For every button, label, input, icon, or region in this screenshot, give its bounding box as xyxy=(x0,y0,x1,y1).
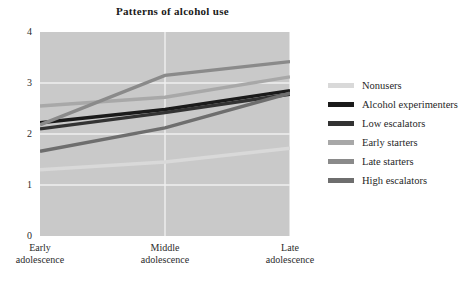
x-tick-line1: Middle xyxy=(151,242,180,253)
legend-swatch-high-escalators xyxy=(328,178,354,183)
x-tick-line2: adolescence xyxy=(123,254,207,266)
legend-item-early-starters[interactable]: Early starters xyxy=(328,133,471,152)
legend-label-high-escalators: High escalators xyxy=(362,175,427,186)
x-tick-line2: adolescence xyxy=(248,254,332,266)
legend-item-high-escalators[interactable]: High escalators xyxy=(328,171,471,190)
y-tick-4: 4 xyxy=(0,27,32,37)
plot-area xyxy=(40,32,290,236)
legend-label-low-escalators: Low escalators xyxy=(362,118,425,129)
legend-swatch-low-escalators xyxy=(328,121,354,126)
chart-legend: NonusersAlcohol experimentersLow escalat… xyxy=(328,76,471,190)
legend-label-alcohol-experimenters: Alcohol experimenters xyxy=(362,99,458,110)
x-tick-middle: Middleadolescence xyxy=(123,242,207,266)
legend-item-late-starters[interactable]: Late starters xyxy=(328,152,471,171)
x-tick-line1: Early xyxy=(29,242,51,253)
y-tick-1: 1 xyxy=(0,180,32,190)
legend-swatch-late-starters xyxy=(328,159,354,164)
legend-item-nonusers[interactable]: Nonusers xyxy=(328,76,471,95)
legend-label-nonusers: Nonusers xyxy=(362,80,402,91)
y-tick-3: 3 xyxy=(0,78,32,88)
legend-item-alcohol-experimenters[interactable]: Alcohol experimenters xyxy=(328,95,471,114)
legend-label-early-starters: Early starters xyxy=(362,137,418,148)
legend-item-low-escalators[interactable]: Low escalators xyxy=(328,114,471,133)
y-tick-0: 0 xyxy=(0,231,32,241)
chart-title: Patterns of alcohol use xyxy=(60,5,285,17)
series-lines xyxy=(40,32,290,236)
alcohol-use-line-chart: Patterns of alcohol use 01234 Earlyadole… xyxy=(0,0,471,284)
legend-swatch-early-starters xyxy=(328,140,354,145)
x-tick-late: Lateadolescence xyxy=(248,242,332,266)
legend-swatch-alcohol-experimenters xyxy=(328,102,354,107)
y-tick-2: 2 xyxy=(0,129,32,139)
x-tick-early: Earlyadolescence xyxy=(0,242,82,266)
legend-label-late-starters: Late starters xyxy=(362,156,414,167)
x-tick-line2: adolescence xyxy=(0,254,82,266)
x-tick-line1: Late xyxy=(281,242,299,253)
legend-swatch-nonusers xyxy=(328,83,354,88)
